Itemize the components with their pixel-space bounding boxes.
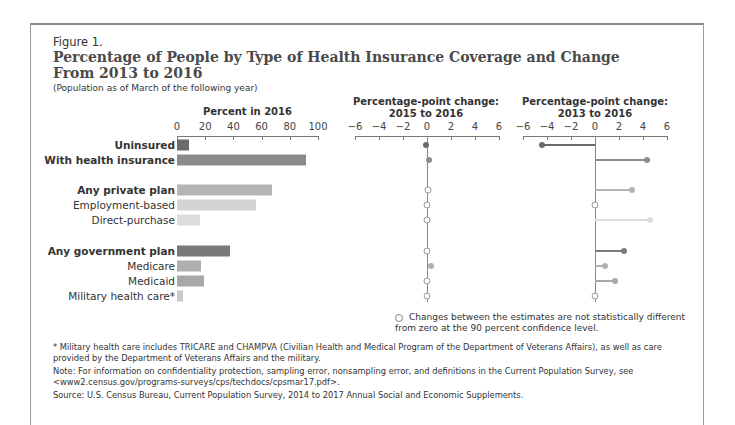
mid-panel-title-line2: 2015 to 2016	[340, 108, 512, 120]
footnote-note: Note: For information on confidentiality…	[53, 366, 693, 388]
figure-label: Figure 1.	[53, 35, 103, 49]
change-stem	[542, 144, 595, 146]
row-label: Medicaid	[128, 275, 175, 287]
bar	[177, 185, 272, 196]
significant-point	[629, 187, 635, 193]
bar-axis-tick-label: 40	[227, 121, 240, 132]
row-label: Any private plan	[77, 184, 175, 196]
row-label: Military health care*	[68, 290, 175, 302]
bar-axis-tick-label: 80	[283, 121, 296, 132]
significant-point	[428, 263, 434, 269]
right-axis-tick-label: −2	[564, 121, 579, 132]
bar-axis-tick	[318, 136, 319, 140]
open-circle-icon	[395, 314, 403, 322]
mid-axis-tick-label: 6	[496, 121, 502, 132]
significant-point	[612, 278, 618, 284]
mid-axis-tick	[355, 136, 356, 140]
right-axis-tick-label: −4	[540, 121, 555, 132]
bar	[177, 246, 230, 257]
left-panel-title: Percent in 2016	[177, 106, 318, 118]
right-axis-tick	[571, 136, 572, 140]
legend-text: Changes between the estimates are not st…	[395, 312, 685, 333]
bar	[177, 155, 306, 166]
mid-axis-tick	[403, 136, 404, 140]
row-label: Employment-based	[73, 199, 175, 211]
mid-axis-tick	[379, 136, 380, 140]
not-significant-point	[592, 293, 599, 300]
change-stem	[595, 189, 632, 191]
figure-title: Percentage of People by Type of Health I…	[53, 49, 653, 81]
change-stem	[595, 250, 624, 252]
mid-axis-tick-label: 2	[448, 121, 454, 132]
not-significant-point	[424, 293, 431, 300]
mid-panel-title-line1: Percentage-point change:	[340, 96, 512, 108]
mid-axis-tick-label: −4	[372, 121, 387, 132]
mid-axis-tick-label: −6	[348, 121, 363, 132]
footnote-military: * Military health care includes TRICARE …	[53, 342, 693, 364]
mid-axis-tick-label: −2	[396, 121, 411, 132]
bar	[177, 276, 204, 287]
not-significant-point	[424, 248, 431, 255]
row-label: With health insurance	[44, 154, 175, 166]
mid-axis-tick	[451, 136, 452, 140]
right-axis-tick	[619, 136, 620, 140]
right-axis-tick-label: −6	[516, 121, 531, 132]
mid-panel-title: Percentage-point change: 2015 to 2016	[340, 96, 512, 120]
bar	[177, 215, 200, 226]
row-label: Medicare	[127, 260, 175, 272]
right-axis-tick-label: 6	[664, 121, 670, 132]
not-significant-point	[424, 217, 431, 224]
not-significant-point	[425, 187, 432, 194]
right-axis-tick	[643, 136, 644, 140]
mid-axis-tick	[499, 136, 500, 140]
significant-point	[423, 142, 429, 148]
significant-point	[426, 157, 432, 163]
bar-axis	[177, 136, 318, 137]
right-axis-tick-label: 4	[640, 121, 646, 132]
bar-axis-tick-label: 60	[255, 121, 268, 132]
row-label: Uninsured	[114, 139, 175, 151]
bar-axis-tick	[290, 136, 291, 140]
right-axis-tick-label: 0	[592, 121, 598, 132]
bar	[177, 261, 201, 272]
right-axis-tick	[667, 136, 668, 140]
bar-axis-tick	[262, 136, 263, 140]
footnote-source: Source: U.S. Census Bureau, Current Popu…	[53, 390, 693, 401]
mid-axis-tick	[475, 136, 476, 140]
significant-point	[644, 157, 650, 163]
bar	[177, 291, 183, 302]
significant-point	[539, 142, 545, 148]
bar-axis-tick-label: 20	[199, 121, 212, 132]
right-panel-title-line1: Percentage-point change:	[509, 96, 681, 108]
right-axis-tick	[523, 136, 524, 140]
bar	[177, 140, 189, 151]
row-label: Direct-purchase	[92, 214, 175, 226]
mid-axis-tick-label: 4	[472, 121, 478, 132]
change-stem	[595, 159, 647, 161]
not-significant-point	[592, 202, 599, 209]
change-stem	[595, 219, 650, 221]
significant-point	[621, 248, 627, 254]
significant-point	[602, 263, 608, 269]
mid-axis-tick-label: 0	[424, 121, 430, 132]
right-axis-tick	[547, 136, 548, 140]
not-significant-point	[424, 202, 431, 209]
row-label: Any government plan	[48, 245, 175, 257]
right-panel-title-line2: 2013 to 2016	[509, 108, 681, 120]
bar	[177, 200, 256, 211]
bar-axis-tick	[233, 136, 234, 140]
right-axis-tick-label: 2	[616, 121, 622, 132]
not-significant-point	[424, 278, 431, 285]
right-panel-title: Percentage-point change: 2013 to 2016	[509, 96, 681, 120]
figure-subtitle: (Population as of March of the following…	[53, 83, 258, 93]
bar-axis-tick-label: 100	[308, 121, 327, 132]
significant-point	[647, 217, 653, 223]
bar-axis-tick	[205, 136, 206, 140]
legend: Changes between the estimates are not st…	[395, 312, 695, 334]
bar-axis-tick-label: 0	[174, 121, 180, 132]
